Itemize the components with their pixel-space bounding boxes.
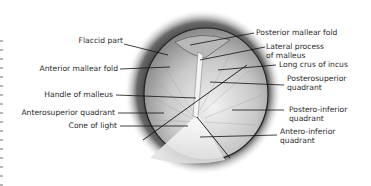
label-posterosuperior-quadrant: Posterosuperior quadrant [287,75,346,92]
label-line-2: quadrant [289,115,347,124]
label-anterior-mallear-fold: Anterior mallear fold [40,65,118,74]
label-anterosuperior-quadrant: Anterosuperior quadrant [21,109,115,118]
label-flaccid-part: Flaccid part [79,37,123,46]
label-antero-inferior-quadrant: Antero-inferior quadrant [280,128,335,145]
label-lateral-process-of-malleus: Lateral process of malleus [266,43,324,60]
label-line-2: of malleus [266,52,324,61]
label-cone-of-light: Cone of light [69,122,117,131]
label-handle-of-malleus: Handle of malleus [44,91,113,100]
label-line-2: quadrant [280,137,335,146]
label-posterior-mallear-fold: Posterior mallear fold [256,29,337,38]
label-line-2: quadrant [287,84,346,93]
label-postero-inferior-quadrant: Postero-inferior quadrant [289,106,347,123]
label-long-crus-of-incus: Long crus of incus [279,61,348,70]
